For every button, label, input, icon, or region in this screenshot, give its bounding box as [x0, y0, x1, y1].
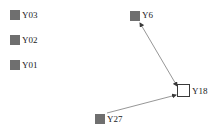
node-square-icon: [177, 84, 190, 97]
node-square-icon: [10, 35, 20, 45]
node-label-y6: Y6: [142, 10, 153, 20]
node-square-icon: [10, 60, 20, 70]
node-label-y02: Y02: [22, 35, 38, 45]
node-label-y27: Y27: [107, 114, 123, 124]
diagram-canvas: Y03 Y02 Y01 Y6 Y18 Y27: [0, 0, 219, 136]
node-label-y01: Y01: [22, 60, 38, 70]
node-square-icon: [130, 11, 140, 21]
edge-y6-y18: [140, 23, 177, 86]
node-square-icon: [10, 10, 20, 20]
node-label-y18: Y18: [192, 86, 208, 96]
node-square-icon: [95, 114, 105, 124]
node-label-y03: Y03: [22, 10, 38, 20]
edge-y27-y18: [107, 95, 176, 113]
